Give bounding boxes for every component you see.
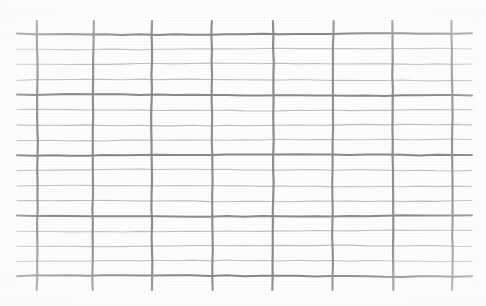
wire-mesh-grid — [0, 0, 486, 306]
grid-line-vertical — [392, 21, 393, 290]
grid-line-vertical — [37, 21, 38, 290]
grid-line-vertical — [332, 21, 334, 290]
grid-line-vertical — [151, 21, 152, 290]
grid-line-vertical — [92, 21, 94, 290]
screenshot-canvas — [0, 0, 486, 306]
